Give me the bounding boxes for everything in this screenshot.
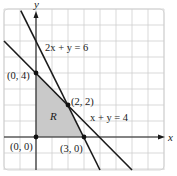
vertex-point-0-4 [34,71,39,76]
y-axis-arrow-icon [34,11,39,18]
x-axis-label: x [167,131,173,143]
line1-equation-text: 2x + y = 6 [45,42,88,53]
point-label-0-0: (0, 0) [10,141,33,153]
line-label-2x-plus-y-eq-6: 2x + y = 6 [45,42,88,53]
feasible-region-graph: x y 2x + y = 6 x + y = 4 R (0, 4) (2, 2)… [0,0,177,176]
y-axis-label: y [33,0,39,10]
point-label-3-0: (3, 0) [60,143,83,155]
point-label-2-2: (2, 2) [71,96,94,108]
plot-canvas: x y 2x + y = 6 x + y = 4 R (0, 4) (2, 2)… [0,0,177,176]
line-label-x-plus-y-eq-4: x + y = 4 [90,112,129,123]
line2-equation-text: x + y = 4 [90,112,129,123]
region-label-r: R [49,110,57,122]
vertex-point-0-0 [34,135,39,140]
vertex-point-2-2 [66,103,71,108]
point-label-0-4: (0, 4) [7,70,30,82]
vertex-point-3-0 [82,135,87,140]
